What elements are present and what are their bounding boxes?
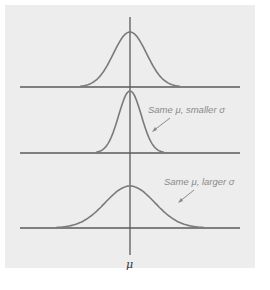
annotation-smaller-sigma: Same μ, smaller σ [148,104,226,115]
arrowhead-larger-sigma [178,198,183,203]
normal-distribution-diagram: Same μ, smaller σ Same μ, larger σ μ [0,0,270,290]
arrowhead-smaller-sigma [152,127,157,132]
annotation-larger-sigma: Same μ, larger σ [164,176,236,187]
mean-label: μ [126,258,133,271]
